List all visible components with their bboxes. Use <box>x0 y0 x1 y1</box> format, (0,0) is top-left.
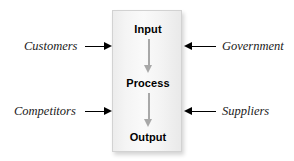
arrow-head <box>104 107 112 115</box>
arrow-left-government-icon <box>184 42 216 51</box>
flow-arrow-head <box>144 65 152 73</box>
arrow-head <box>184 42 192 50</box>
arrow-head <box>104 42 112 50</box>
arrow-head <box>184 107 192 115</box>
flow-arrow-shaft <box>148 39 150 66</box>
arrow-right-customers-icon <box>85 42 112 51</box>
external-label-competitors: Competitors <box>14 104 76 119</box>
diagram-canvas: Input Process Output Customers Competito… <box>0 0 294 161</box>
arrow-shaft <box>191 46 216 48</box>
external-label-customers: Customers <box>24 39 77 54</box>
process-box: Input Process Output <box>112 10 182 152</box>
arrow-shaft <box>85 111 105 113</box>
arrow-shaft <box>85 46 105 48</box>
stage-label-output: Output <box>113 131 183 143</box>
stage-label-process: Process <box>113 77 183 89</box>
arrow-shaft <box>191 111 216 113</box>
external-label-government: Government <box>222 39 284 54</box>
arrow-left-suppliers-icon <box>184 107 216 116</box>
external-label-suppliers: Suppliers <box>222 104 269 119</box>
flow-arrow-input-to-process-icon <box>144 39 153 73</box>
stage-label-input: Input <box>113 23 183 35</box>
arrow-right-competitors-icon <box>85 107 112 116</box>
flow-arrow-shaft <box>148 93 150 120</box>
flow-arrow-head <box>144 119 152 127</box>
flow-arrow-process-to-output-icon <box>144 93 153 127</box>
